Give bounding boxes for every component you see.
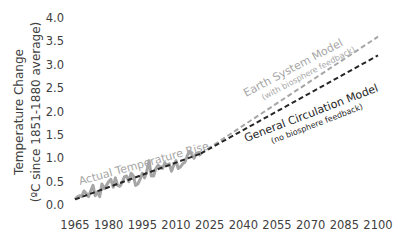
x-tick-label: 2085 <box>330 218 359 232</box>
y-tick-label: 2.5 <box>46 81 64 95</box>
annotation-actual-label: Actual Temperature Rise <box>77 139 210 187</box>
x-tick-label: 1980 <box>94 218 123 232</box>
x-axis-ticks: 1965198019952010202520402055207020852100 <box>60 218 392 232</box>
x-tick-label: 2100 <box>363 218 392 232</box>
x-tick-label: 1995 <box>128 218 157 232</box>
x-tick-label: 2010 <box>161 218 190 232</box>
y-tick-label: 0.5 <box>46 175 64 189</box>
y-tick-label: 2.0 <box>46 105 64 119</box>
x-tick-label: 1965 <box>60 218 89 232</box>
y-tick-label: 0.0 <box>46 198 64 212</box>
x-tick-label: 2070 <box>296 218 325 232</box>
y-tick-label: 4.0 <box>46 11 64 25</box>
y-axis-title-line2: (ºC since 1851-1880 average) <box>29 22 43 203</box>
y-tick-label: 3.0 <box>46 58 64 72</box>
y-axis-title: Temperature Change (ºC since 1851-1880 a… <box>12 22 43 203</box>
temperature-chart: Temperature Change (ºC since 1851-1880 a… <box>0 0 402 241</box>
y-axis-title-line1: Temperature Change <box>12 49 26 176</box>
y-tick-label: 3.5 <box>46 34 64 48</box>
x-tick-label: 2055 <box>262 218 291 232</box>
y-axis-ticks: 0.00.51.01.52.02.53.03.54.0 <box>46 11 64 212</box>
y-tick-label: 1.5 <box>46 128 64 142</box>
y-tick-label: 1.0 <box>46 151 64 165</box>
x-tick-label: 2025 <box>195 218 224 232</box>
annotation-actual: Actual Temperature Rise <box>77 139 210 187</box>
x-tick-label: 2040 <box>229 218 258 232</box>
